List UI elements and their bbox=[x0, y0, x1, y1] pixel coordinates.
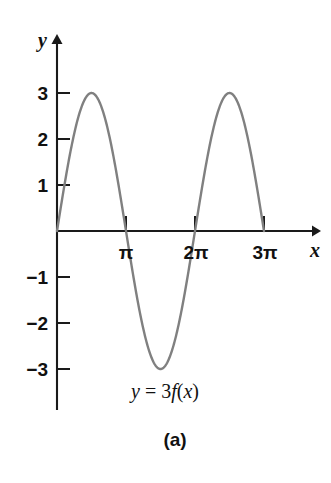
y-tick-label-3: 3 bbox=[37, 84, 48, 103]
y-tick-label-neg2: −2 bbox=[26, 314, 48, 333]
y-tick-label-2: 2 bbox=[37, 130, 48, 149]
equation-equals: = bbox=[140, 380, 161, 402]
x-tick-label-pi: π bbox=[119, 243, 134, 262]
curve-equation-label: y = 3f(x) bbox=[131, 381, 199, 401]
y-tick-label-neg1: −1 bbox=[26, 268, 48, 287]
panel-caption: (a) bbox=[163, 430, 186, 449]
x-axis-arrowhead bbox=[312, 226, 321, 237]
equation-argument: x bbox=[183, 380, 192, 402]
equation-close-paren: ) bbox=[192, 380, 199, 402]
equation-lhs: y bbox=[131, 380, 140, 402]
x-axis-label: x bbox=[310, 240, 320, 260]
axes-group bbox=[52, 34, 322, 410]
x-tick-label-3pi: 3π bbox=[252, 243, 277, 262]
equation-coefficient: 3 bbox=[161, 380, 171, 402]
y-tick-label-neg3: −3 bbox=[26, 360, 48, 379]
y-tick-label-1: 1 bbox=[37, 176, 48, 195]
y-axis-arrowhead bbox=[52, 34, 63, 44]
plot-svg bbox=[0, 0, 331, 483]
x-tick-label-2pi: 2π bbox=[183, 243, 208, 262]
figure-container: 3 2 1 −1 −2 −3 π 2π 3π y x y = 3f(x) (a) bbox=[0, 0, 331, 483]
y-axis-label: y bbox=[38, 30, 47, 50]
